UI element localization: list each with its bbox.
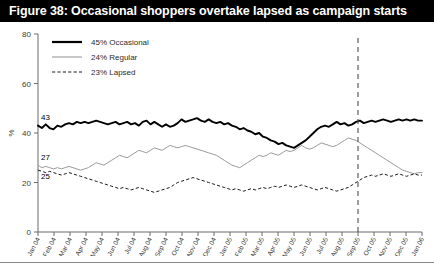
line-chart: 020406080%Jan 04Feb 04Mar 04Apr 04May 04… — [0, 22, 434, 256]
start-label-lapsed: 25 — [41, 172, 50, 181]
start-label-regular: 27 — [41, 153, 50, 162]
legend-label: 45% Occasional — [91, 38, 149, 47]
chart-legend: 45% Occasional24% Regular23% Lapsed — [52, 38, 149, 77]
x-axis-tick-label: Sep 05 — [345, 236, 362, 256]
chart-axes: 020406080%Jan 04Feb 04Mar 04Apr 04May 04… — [7, 30, 425, 256]
x-axis-tick-label: Jan 04 — [26, 236, 42, 256]
chart-annotations: 432725 — [41, 113, 50, 182]
legend-item-occasional[interactable]: 45% Occasional — [52, 38, 149, 47]
x-axis-tick-label: Nov 04 — [185, 236, 201, 256]
x-axis-tick-label: May 04 — [89, 236, 106, 256]
legend-label: 23% Lapsed — [91, 68, 135, 77]
y-axis-tick-label: 80 — [22, 30, 31, 39]
series-line-lapsed — [38, 170, 422, 192]
x-axis-tick-label: Jul 05 — [315, 236, 330, 255]
x-axis-tick-label: Sep 04 — [153, 236, 170, 256]
series-line-occasional — [38, 118, 422, 148]
x-axis-tick-label: Oct 04 — [170, 236, 185, 256]
x-axis-tick-label: May 05 — [281, 236, 298, 256]
x-axis-tick-label: Jun 04 — [106, 236, 122, 256]
y-axis-tick-label: 20 — [22, 179, 31, 188]
x-axis-tick-label: Aug 04 — [137, 236, 154, 256]
y-axis-tick-label: 0 — [27, 228, 32, 237]
page-title: Figure 38: Occasional shoppers overtake … — [9, 4, 407, 18]
x-axis-tick-label: Apr 05 — [266, 236, 282, 256]
legend-item-lapsed[interactable]: 23% Lapsed — [52, 68, 135, 77]
legend-label: 24% Regular — [91, 53, 138, 62]
x-axis-tick-label: Jun 05 — [298, 236, 314, 256]
x-axis-tick-label: Feb 04 — [41, 236, 57, 256]
y-axis-tick-label: 40 — [22, 129, 31, 138]
figure-bottom-rule — [0, 262, 434, 263]
y-axis-title: % — [7, 129, 16, 136]
x-axis-tick-label: Jan 05 — [218, 236, 234, 256]
x-axis-tick-label: Apr 04 — [74, 236, 90, 256]
x-axis-tick-label: Jul 04 — [123, 236, 138, 255]
start-label-occasional: 43 — [41, 113, 50, 122]
x-axis-tick-label: Nov 05 — [377, 236, 393, 256]
x-axis-tick-label: Oct 05 — [362, 236, 377, 256]
x-axis-tick-label: Dec 05 — [393, 236, 409, 256]
x-axis-tick-label: Mar 04 — [57, 236, 73, 256]
x-axis-tick-label: Feb 05 — [233, 236, 249, 256]
legend-item-regular[interactable]: 24% Regular — [52, 53, 138, 62]
figure-title-bar: Figure 38: Occasional shoppers overtake … — [0, 0, 434, 22]
y-axis-tick-label: 60 — [22, 80, 31, 89]
chart-series — [38, 118, 422, 192]
figure-container: Figure 38: Occasional shoppers overtake … — [0, 0, 434, 268]
x-axis-tick-label: Jan 06 — [410, 236, 426, 256]
series-line-regular — [38, 138, 422, 174]
x-axis-tick-label: Mar 05 — [249, 236, 265, 256]
chart-plot-area: 020406080%Jan 04Feb 04Mar 04Apr 04May 04… — [0, 22, 434, 256]
x-axis-tick-label: Aug 05 — [329, 236, 346, 256]
x-axis-tick-label: Dec 04 — [201, 236, 217, 256]
